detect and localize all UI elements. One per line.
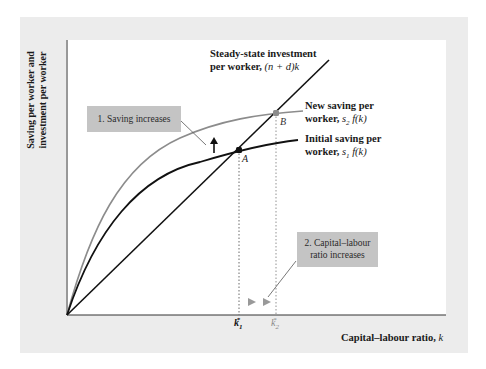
- up-arrow-icon: [210, 137, 218, 144]
- new-saving-label-line1: New saving per: [305, 99, 374, 112]
- initial-saving-label-line2: worker, s1 f(k): [305, 145, 381, 163]
- right-arrow-icon-2: [263, 298, 271, 306]
- investment-label-line1: Steady-state investment: [210, 47, 316, 60]
- point-b-marker: [273, 110, 279, 116]
- new-saving-curve: [67, 111, 303, 315]
- initial-saving-label: Initial saving per worker, s1 f(k): [305, 132, 381, 163]
- y-axis-label-line1: Saving per worker and: [25, 40, 37, 160]
- k1-star-tick: k1*: [234, 316, 240, 331]
- annotation-saving-increases-text: 1. Saving increases: [97, 114, 170, 124]
- box2-connector: [268, 261, 296, 297]
- annotation-capital-line1: 2. Capital–labour: [297, 237, 378, 249]
- annotation-capital-labour-increases: 2. Capital–labour ratio increases: [297, 232, 378, 267]
- k2-star-tick: k2*: [271, 316, 276, 331]
- box1-connector: [181, 121, 206, 145]
- initial-saving-label-line1: Initial saving per: [305, 132, 381, 145]
- new-saving-label-line2: worker, s2 f(k): [305, 112, 374, 130]
- y-axis-label: Saving per worker and investment per wor…: [25, 40, 49, 160]
- investment-line: [67, 60, 329, 315]
- point-a-label: A: [242, 152, 248, 165]
- right-arrow-icon-1: [248, 298, 256, 306]
- x-axis-label: Capital–labour ratio, k: [341, 331, 443, 344]
- initial-saving-curve: [67, 140, 298, 315]
- annotation-capital-line2: ratio increases: [297, 249, 378, 261]
- y-axis-label-line2: investment per worker: [37, 40, 49, 160]
- investment-label-line2: per worker, (n + d)k: [210, 60, 316, 73]
- new-saving-label: New saving per worker, s2 f(k): [305, 99, 374, 130]
- annotation-saving-increases: 1. Saving increases: [87, 106, 181, 132]
- investment-line-label: Steady-state investment per worker, (n +…: [210, 47, 316, 73]
- point-b-label: B: [280, 115, 286, 128]
